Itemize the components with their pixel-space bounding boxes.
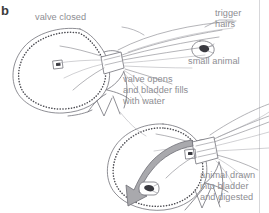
label-valve-opens-line1: valve opens bbox=[123, 74, 173, 85]
label-digested-line1: animal drawn bbox=[200, 170, 255, 181]
upper-bladder-group bbox=[13, 28, 129, 116]
leader-valve-closed bbox=[122, 27, 144, 35]
label-trigger-hairs-line1: trigger bbox=[215, 8, 241, 19]
label-valve-opens-line2: and bladder fills bbox=[123, 85, 188, 96]
small-animal-lower bbox=[139, 182, 159, 195]
bladderwort-trap-figure: b .ln{fill:none;stroke:#72727a;stroke-wi… bbox=[0, 0, 269, 213]
label-valve-closed: valve closed bbox=[35, 12, 86, 23]
label-digested-line2: into bladder bbox=[200, 181, 249, 192]
label-small-animal: small animal bbox=[188, 56, 240, 67]
label-digested-line3: and digested bbox=[200, 192, 253, 203]
water-inflow-arrow bbox=[126, 140, 193, 206]
label-valve-opens-line3: with water bbox=[123, 96, 165, 107]
label-trigger-hairs-line2: hairs bbox=[215, 19, 235, 30]
